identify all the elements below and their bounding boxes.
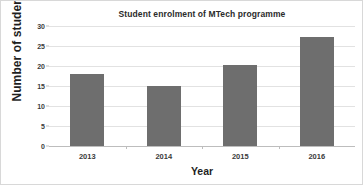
bar-series (49, 26, 355, 146)
x-tick-mark (126, 146, 127, 149)
x-axis-label: Year (49, 165, 355, 177)
y-tick-label: 10 (37, 103, 45, 110)
x-tick-label: 2016 (308, 152, 325, 161)
x-tick-label: 2013 (79, 152, 96, 161)
bar (147, 86, 181, 146)
plot-area: 051015202530 2013201420152016 (49, 26, 355, 146)
chart-title: Student enrolment of MTech programme (47, 9, 357, 19)
x-tick-mark (202, 146, 203, 149)
y-tick-label: 30 (37, 23, 45, 30)
x-tick-label: 2014 (155, 152, 172, 161)
y-tick-label: 20 (37, 63, 45, 70)
bar-slot (49, 26, 126, 146)
bar-slot (279, 26, 356, 146)
x-tick-label: 2015 (232, 152, 249, 161)
y-axis-label: Number of students (10, 0, 24, 104)
bar (223, 65, 257, 146)
y-tick-label: 25 (37, 43, 45, 50)
y-tick-label: 5 (41, 123, 45, 130)
bar (300, 37, 334, 146)
y-tick-label: 0 (41, 143, 45, 150)
y-tick-label: 15 (37, 83, 45, 90)
bar (70, 74, 104, 146)
bar-chart-figure: Student enrolment of MTech programme Num… (0, 0, 363, 185)
bar-slot (202, 26, 279, 146)
bar-slot (126, 26, 203, 146)
x-tick-mark (279, 146, 280, 149)
